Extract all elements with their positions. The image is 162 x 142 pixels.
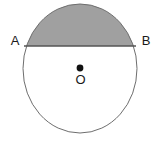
label-point-a: A <box>11 33 20 48</box>
center-point-dot <box>77 65 84 72</box>
geometry-figure: A B O <box>0 0 162 142</box>
label-center-o: O <box>75 72 85 87</box>
label-point-b: B <box>142 33 151 48</box>
circle-diagram-svg: A B O <box>0 0 162 142</box>
